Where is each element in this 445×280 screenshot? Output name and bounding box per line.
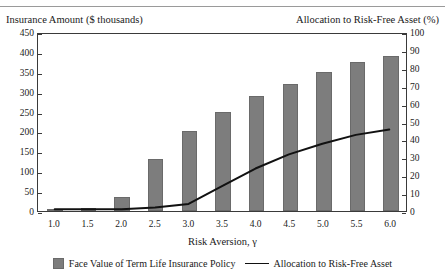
x-tick-label: 4.0 xyxy=(241,218,271,230)
y-tick-label-right: 20 xyxy=(410,172,440,182)
y-tick-label-right: 70 xyxy=(410,83,440,93)
legend-line-swatch-icon xyxy=(245,263,269,264)
legend-line-label: Allocation to Risk-Free Asset xyxy=(274,258,393,269)
x-tick-label: 1.0 xyxy=(39,218,69,230)
y-tick-label-right: 30 xyxy=(410,154,440,164)
allocation-line xyxy=(55,130,390,210)
y-tick-label-left: 350 xyxy=(4,69,34,79)
legend-item-line: Allocation to Risk-Free Asset xyxy=(245,258,393,269)
plot-frame xyxy=(37,33,407,212)
x-axis-title-text: Risk Aversion, γ xyxy=(188,236,257,247)
x-tick-label: 3.5 xyxy=(207,218,237,230)
x-axis-labels: 1.01.52.02.53.03.54.04.55.05.56.0 xyxy=(37,218,407,232)
x-tick-label: 3.0 xyxy=(173,218,203,230)
y-tick-left xyxy=(38,213,42,214)
axis-titles-header: Insurance Amount ($ thousands) Allocatio… xyxy=(0,13,445,27)
legend-bar-swatch-icon xyxy=(53,258,64,269)
x-tick-label: 2.5 xyxy=(140,218,170,230)
x-tick-label: 6.0 xyxy=(375,218,405,230)
y-tick-label-left: 300 xyxy=(4,89,34,99)
legend-bar-label: Face Value of Term Life Insurance Policy xyxy=(69,258,236,269)
y-tick-label-left: 0 xyxy=(4,208,34,218)
right-axis-title: Allocation to Risk-Free Asset (%) xyxy=(296,13,439,27)
chart-area: 050100150200250300350400450 010203040506… xyxy=(0,28,445,220)
x-tick-label: 2.0 xyxy=(106,218,136,230)
y-tick-label-right: 60 xyxy=(410,101,440,111)
x-tick-label: 1.5 xyxy=(72,218,102,230)
x-tick-label: 4.5 xyxy=(274,218,304,230)
legend-item-bar: Face Value of Term Life Insurance Policy xyxy=(53,258,236,269)
y-tick-label-left: 450 xyxy=(4,29,34,39)
x-tick-label: 5.0 xyxy=(308,218,338,230)
y-tick-label-left: 400 xyxy=(4,49,34,59)
x-axis-title: Risk Aversion, γ xyxy=(0,236,445,247)
y-axis-right-labels: 0102030405060708090100 xyxy=(410,33,444,212)
y-tick-label-right: 10 xyxy=(410,190,440,200)
y-tick-label-left: 150 xyxy=(4,148,34,158)
line-series xyxy=(38,34,406,211)
y-tick-label-right: 100 xyxy=(410,29,440,39)
y-tick-label-left: 250 xyxy=(4,109,34,119)
y-tick-label-left: 100 xyxy=(4,168,34,178)
y-tick-label-right: 90 xyxy=(410,47,440,57)
y-tick-label-right: 50 xyxy=(410,119,440,129)
y-tick-label-right: 80 xyxy=(410,65,440,75)
y-tick-right xyxy=(402,213,406,214)
x-tick-label: 5.5 xyxy=(342,218,372,230)
y-tick-label-left: 50 xyxy=(4,188,34,198)
y-tick-label-right: 40 xyxy=(410,136,440,146)
chart-legend: Face Value of Term Life Insurance Policy… xyxy=(0,258,445,269)
left-axis-title: Insurance Amount ($ thousands) xyxy=(6,13,143,27)
top-divider xyxy=(0,6,445,7)
y-axis-left-labels: 050100150200250300350400450 xyxy=(0,33,34,212)
y-tick-label-left: 200 xyxy=(4,128,34,138)
y-tick-label-right: 0 xyxy=(410,208,440,218)
